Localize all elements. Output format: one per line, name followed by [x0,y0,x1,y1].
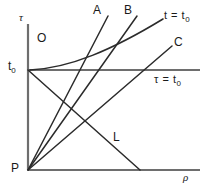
curve-t-equals-t0-label: t = t0 [164,10,190,24]
rho-axis-label: ρ [183,172,188,183]
tau-axis-label: τ [19,12,23,23]
tau-equals-t0-subscript: 0 [176,79,181,88]
region-o-label: O [37,32,46,44]
vertex-p-label: P [11,162,19,174]
diagram-svg [0,0,207,189]
line-c-label: C [174,36,183,48]
t-zero-tick-label: t0 [8,60,16,75]
diagram-canvas: τ O t0 P ρ A B C L t = t0 τ = t0 [0,0,207,189]
curve-t-equals-t0-path [30,19,163,70]
line-a-label: A [93,4,101,16]
line-l-label: L [113,131,120,143]
t-zero-tick-subscript: 0 [11,66,15,75]
curve-t-equals-t0-subscript: 0 [185,15,190,24]
tau-equals-t0-label: τ = t0 [154,74,181,88]
tau-equals-t0-text: τ = t [154,73,176,85]
ray-c-line [28,46,172,170]
curve-t-equals-t0-text: t = t [164,9,185,21]
line-b-label: B [124,4,132,16]
